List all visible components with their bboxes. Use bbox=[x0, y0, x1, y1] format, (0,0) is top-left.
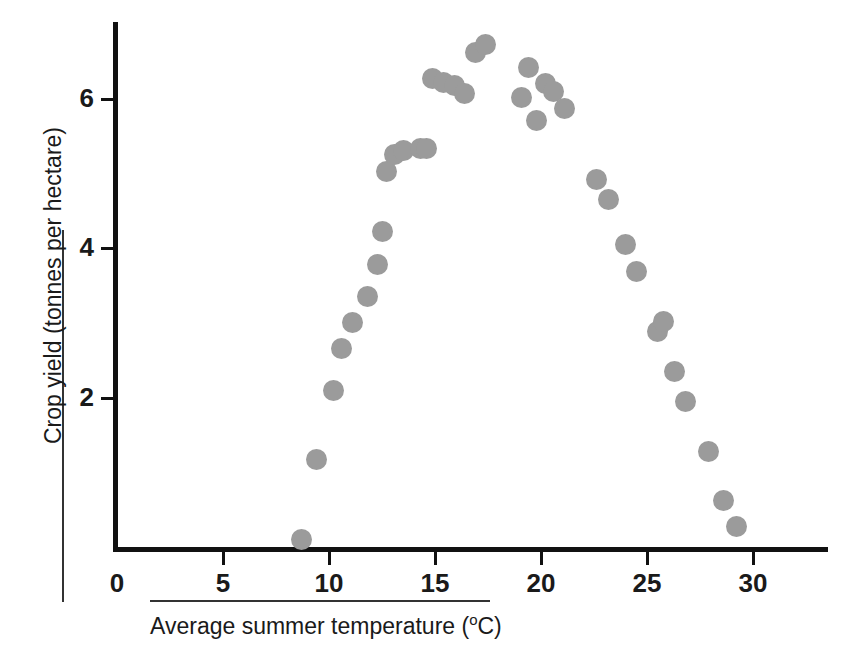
x-axis-title-unit: C) bbox=[478, 613, 502, 639]
data-point bbox=[291, 529, 312, 550]
data-point bbox=[454, 83, 475, 104]
data-point bbox=[511, 87, 532, 108]
data-point bbox=[342, 312, 363, 333]
x-axis-title-rule bbox=[150, 600, 490, 602]
data-point bbox=[615, 234, 636, 255]
data-point bbox=[357, 286, 378, 307]
data-point bbox=[698, 441, 719, 462]
data-point bbox=[554, 98, 575, 119]
data-point bbox=[626, 261, 647, 282]
x-axis-title: Average summer temperature (oC) bbox=[150, 612, 502, 638]
x-axis-title-main: Average summer temperature ( bbox=[150, 613, 469, 639]
data-point bbox=[653, 311, 674, 332]
data-point bbox=[367, 254, 388, 275]
data-point bbox=[518, 57, 539, 78]
degree-superscript-icon: o bbox=[469, 611, 477, 628]
data-point bbox=[306, 449, 327, 470]
data-point bbox=[323, 380, 344, 401]
scatter-points-layer bbox=[0, 0, 852, 660]
y-axis-title: Crop yield (tonnes per hectare) bbox=[42, 51, 65, 521]
data-point bbox=[372, 221, 393, 242]
data-point bbox=[586, 169, 607, 190]
data-point bbox=[675, 391, 696, 412]
data-point bbox=[726, 516, 747, 537]
data-point bbox=[331, 338, 352, 359]
data-point bbox=[416, 138, 437, 159]
data-point bbox=[664, 361, 685, 382]
chart-figure: 246 051015202530 Crop yield (tonnes per … bbox=[0, 0, 852, 660]
data-point bbox=[526, 110, 547, 131]
data-point bbox=[598, 189, 619, 210]
data-point bbox=[713, 490, 734, 511]
data-point bbox=[475, 34, 496, 55]
y-axis-title-group: Crop yield (tonnes per hectare) bbox=[0, 60, 95, 540]
